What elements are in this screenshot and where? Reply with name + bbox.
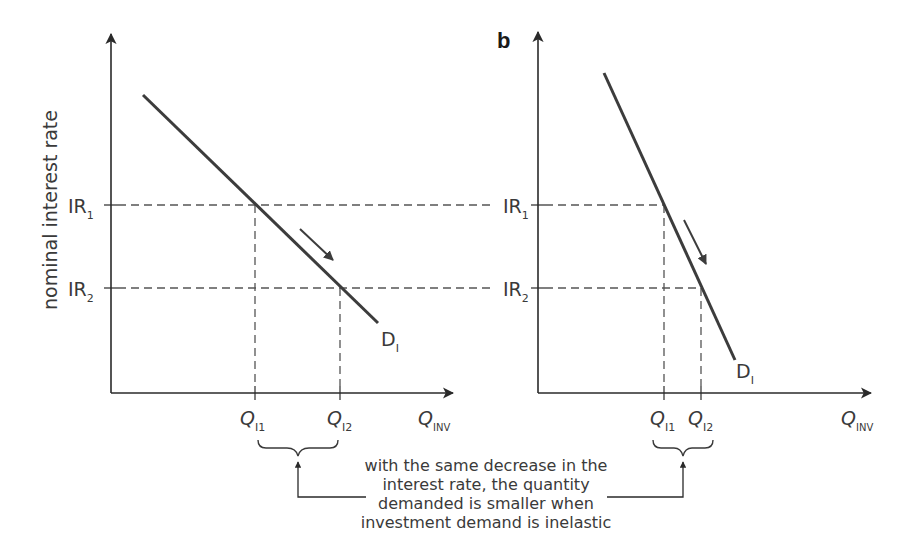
annotation-line-2: interest rate, the quantity — [382, 475, 589, 494]
q1-label: QI1 — [650, 407, 675, 434]
demand-curve-inelastic — [604, 73, 735, 360]
ir1-label: IR1 — [503, 195, 529, 222]
demand-curve-elastic — [143, 95, 378, 323]
annotation-text: with the same decrease in the interest r… — [361, 456, 612, 532]
ir2-label: IR2 — [68, 278, 94, 305]
investment-demand-diagram: nominal interest rate b IR1 IR2 DI — [0, 0, 920, 555]
left-connector — [298, 462, 366, 497]
right-connector — [607, 462, 683, 497]
q2-label: QI2 — [688, 407, 713, 434]
brace — [258, 440, 338, 456]
movement-arrow — [300, 229, 333, 260]
y-axis-label: nominal interest rate — [39, 110, 61, 310]
q2-label: QI2 — [327, 407, 352, 434]
annotation-line-1: with the same decrease in the — [365, 456, 608, 475]
ir1-label: IR1 — [68, 195, 94, 222]
x-axis-label: QINV — [418, 407, 450, 433]
q1-label: QI1 — [240, 407, 265, 434]
annotation-line-4: investment demand is inelastic — [361, 513, 612, 532]
panel-inelastic: IR1 IR2 DI QI1 QI2 QINV — [503, 32, 873, 456]
x-axis-label: QINV — [841, 407, 873, 433]
panel-letter: b — [497, 28, 510, 53]
demand-curve-label: DI — [381, 328, 399, 355]
brace — [653, 440, 713, 456]
demand-curve-label: DI — [736, 360, 754, 387]
annotation-line-3: demanded is smaller when — [378, 494, 594, 513]
ir2-label: IR2 — [503, 278, 529, 305]
panel-elastic: IR1 IR2 DI QI1 QI2 QINV — [68, 34, 492, 456]
